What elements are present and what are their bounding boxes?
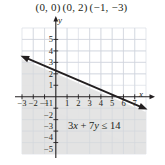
coordinate-plane-figure: −3 −2 −1 1 2 3 4 5 6 7 5 4 3 2 1 −1 −2 −…: [0, 17, 165, 165]
eq-rhs: 14: [110, 120, 121, 131]
y-tick-label-4: 4: [39, 47, 53, 56]
inequality-annotation: 3x + 7y ≤ 14: [68, 121, 121, 132]
eq-var-x: x: [73, 120, 78, 131]
y-tick-label--5: −5: [36, 145, 53, 154]
y-tick-label-2: 2: [39, 70, 53, 79]
eq-plus: +: [81, 120, 87, 131]
eq-relation: ≤: [102, 120, 108, 131]
y-tick-label-1: 1: [39, 81, 53, 90]
point-item-2: (0, 2): [63, 1, 88, 13]
y-tick-label--3: −3: [36, 122, 53, 131]
plot-area: −3 −2 −1 1 2 3 4 5 6 7 5 4 3 2 1 −1 −2 −…: [22, 28, 146, 154]
y-tick-label-3: 3: [39, 58, 53, 67]
x-axis-label: x: [139, 90, 143, 99]
y-axis-label: y: [58, 16, 62, 25]
y-tick-label--2: −2: [36, 111, 53, 120]
x-tick-label-7: 7: [128, 99, 142, 108]
eq-var-y: y: [94, 120, 99, 131]
figure-root: (0, 0)(0, 2)(−1, −3): [0, 0, 165, 165]
y-tick-label--4: −4: [36, 133, 53, 142]
y-tick-label-5: 5: [39, 35, 53, 44]
y-tick-label--1: −1: [36, 99, 53, 108]
x-axis-arrow: [150, 94, 156, 99]
point-list: (0, 0)(0, 2)(−1, −3): [0, 1, 165, 13]
point-item-1: (0, 0): [36, 1, 61, 13]
point-item-3: (−1, −3): [90, 1, 128, 13]
